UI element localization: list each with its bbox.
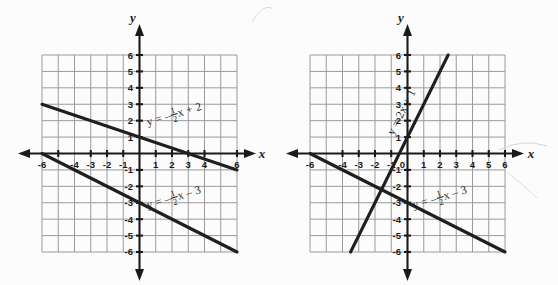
graph-left-canvas: -6 -4 -3 -2 -1 1 2 3 4 6 — [0, 0, 279, 285]
y-tick-label: -1 — [125, 164, 134, 175]
y-tick-label: 6 — [396, 50, 401, 61]
y-tick-label: 6 — [128, 50, 133, 61]
x-tick-label: -2 — [103, 159, 111, 170]
x-tick-label: -3 — [355, 159, 363, 170]
y-tick-label: 3 — [128, 99, 133, 110]
x-tick-label: 1 — [421, 159, 427, 170]
x-axis-name: x — [527, 146, 535, 161]
y-tick-label: -5 — [125, 230, 134, 241]
x-tick-label: -2 — [371, 159, 379, 170]
y-tick-label: -2 — [125, 181, 133, 192]
y-tick-label: -6 — [393, 246, 401, 257]
equation-rhs: x + 2 — [176, 100, 203, 119]
equation-rhs: x – 3 — [442, 183, 468, 201]
y-tick-label: -5 — [393, 230, 402, 241]
x-tick-label: 2 — [169, 159, 174, 170]
x-tick-label: 2 — [437, 159, 442, 170]
y-tick-label: -4 — [125, 214, 134, 225]
equation-rhs: x – 3 — [176, 183, 202, 201]
x-tick-label: 3 — [454, 159, 459, 170]
y-axis-name: y — [128, 10, 136, 25]
y-tick-label: 5 — [128, 66, 134, 77]
x-tick-label: -6 — [306, 159, 314, 170]
y-tick-label: 2 — [128, 115, 133, 126]
y-tick-label: 4 — [128, 82, 134, 93]
y-axis-name: y — [396, 10, 404, 25]
x-tick-label: 5 — [486, 159, 492, 170]
x-tick-label: -3 — [87, 159, 95, 170]
equation-lhs: y = – — [411, 192, 438, 211]
x-axis-name: x — [258, 146, 266, 161]
y-tick-label: -4 — [393, 214, 402, 225]
y-tick-label: -6 — [125, 246, 133, 257]
x-tick-label: 4 — [470, 159, 476, 170]
y-tick-label: 5 — [396, 66, 402, 77]
x-tick-label: 3 — [186, 159, 191, 170]
graph-right-canvas: -6 -4 -3 -2 -1 0 1 2 3 4 5 6 — [279, 0, 558, 285]
graph-left: -6 -4 -3 -2 -1 1 2 3 4 6 — [0, 0, 279, 285]
graph-right: -6 -4 -3 -2 -1 0 1 2 3 4 5 6 — [279, 0, 558, 285]
x-tick-label: -6 — [38, 159, 46, 170]
equation-lhs: y = – — [145, 109, 172, 128]
y-tick-label: -2 — [393, 181, 401, 192]
y-tick-label: 4 — [396, 82, 402, 93]
x-tick-label: 6 — [502, 159, 507, 170]
equation-lhs: y = – — [145, 192, 172, 211]
x-tick-label: 1 — [153, 159, 159, 170]
figure-two-coordinate-graphs: -6 -4 -3 -2 -1 1 2 3 4 6 — [0, 0, 558, 285]
